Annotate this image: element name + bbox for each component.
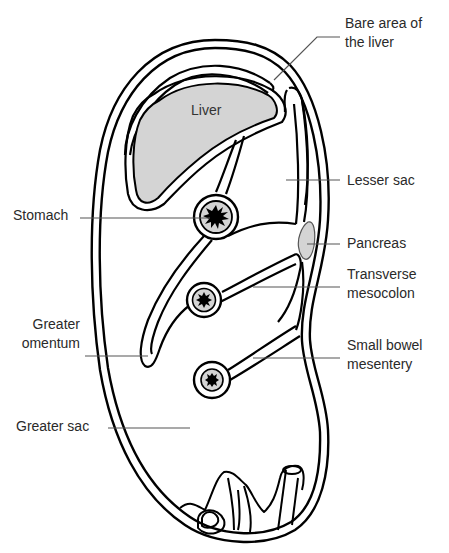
greater-sac-label: Greater sac bbox=[16, 417, 89, 436]
liver-label: Liver bbox=[191, 102, 221, 118]
small-bowel bbox=[194, 362, 230, 398]
stomach-label: Stomach bbox=[13, 206, 68, 225]
transverse-mesocolon-label-line1: Transverse bbox=[347, 265, 417, 284]
greater-omentum-label-line2: omentum bbox=[16, 334, 80, 353]
bare-area-label-line2: the liver bbox=[345, 33, 422, 52]
small-bowel-mesentery bbox=[228, 326, 300, 380]
greater-omentum-label: Greater omentum bbox=[16, 315, 80, 353]
small-bowel-mesentery-label-line1: Small bowel bbox=[347, 336, 422, 355]
transverse-mesocolon bbox=[220, 254, 303, 330]
transverse-mesocolon-label: Transverse mesocolon bbox=[347, 265, 417, 303]
lesser-sac-label: Lesser sac bbox=[347, 171, 415, 190]
greater-omentum-label-line1: Greater bbox=[16, 315, 80, 334]
small-bowel-mesentery-label: Small bowel mesentery bbox=[347, 336, 422, 374]
bare-area-label: Bare area of the liver bbox=[345, 14, 422, 52]
star-burst-icon bbox=[196, 292, 212, 308]
lesser-omentum bbox=[216, 136, 244, 194]
peritoneum-diagram: Liver Bare area of the liver Lesser sac … bbox=[0, 0, 449, 553]
pancreas-label: Pancreas bbox=[347, 234, 406, 253]
posterior-structures bbox=[180, 466, 304, 534]
bare-area-label-line1: Bare area of bbox=[345, 14, 422, 33]
transverse-colon bbox=[187, 283, 221, 317]
stomach bbox=[194, 195, 238, 239]
transverse-mesocolon-label-line2: mesocolon bbox=[347, 284, 417, 303]
small-bowel-mesentery-label-line2: mesentery bbox=[347, 355, 422, 374]
pancreas-shape bbox=[298, 222, 314, 259]
